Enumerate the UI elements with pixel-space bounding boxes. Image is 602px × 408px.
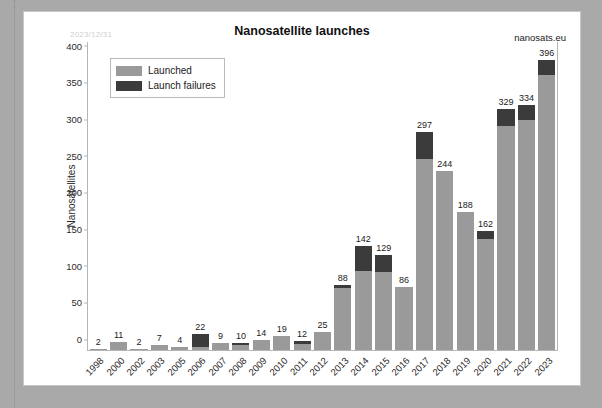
x-axis-tick: 2000 <box>104 355 127 378</box>
bar-launched: 4 <box>171 347 188 350</box>
x-axis-tick: 2006 <box>185 355 208 378</box>
bar-launched: 188 <box>457 212 474 350</box>
bar-value-label: 334 <box>519 93 534 103</box>
bar-launched: 9 <box>212 343 229 350</box>
bar-group: 252012 <box>312 42 332 350</box>
bar-launch-failures <box>294 341 311 344</box>
bar-group: 142009 <box>251 42 271 350</box>
bar-group: 102008 <box>231 42 251 350</box>
x-axis-tick: 2012 <box>308 355 331 378</box>
y-axis-tick: 400 <box>66 40 88 51</box>
x-axis-tick: 2009 <box>246 355 269 378</box>
bar-launched: 2 <box>90 349 107 350</box>
page-left-dotted-rule <box>14 0 15 408</box>
y-axis-tick: 0 <box>77 334 88 345</box>
bar-launched: 14 <box>253 340 270 350</box>
bar-launched: 10 <box>232 343 249 350</box>
bar-group: 2972017 <box>414 42 434 350</box>
bar-value-label: 19 <box>277 324 287 334</box>
bar-value-label: 86 <box>399 275 409 285</box>
bar-launch-failures <box>375 255 392 271</box>
bar-value-label: 7 <box>157 333 162 343</box>
bar-launched: 88 <box>334 285 351 350</box>
bar-group: 862016 <box>394 42 414 350</box>
bar-value-label: 2 <box>96 337 101 347</box>
y-axis-tick: 350 <box>66 77 88 88</box>
bar-launch-failures <box>477 231 494 238</box>
x-axis-tick: 2010 <box>267 355 290 378</box>
bar-group: 21998 <box>88 42 108 350</box>
bar-value-label: 162 <box>478 219 493 229</box>
bar-group: 2442018 <box>435 42 455 350</box>
y-axis-tick: 50 <box>71 297 88 308</box>
x-axis-tick: 2019 <box>450 355 473 378</box>
bar-value-label: 11 <box>114 330 123 340</box>
bar-launch-failures <box>538 60 555 75</box>
x-axis-tick: 2003 <box>144 355 167 378</box>
bar-launched: 25 <box>314 332 331 350</box>
bar-launched: 396 <box>538 60 555 350</box>
bar-launch-failures <box>232 343 249 345</box>
bar-value-label: 22 <box>195 322 205 332</box>
bar-group: 1292015 <box>373 42 393 350</box>
bar-launched: 129 <box>375 255 392 350</box>
bar-launched: 162 <box>477 231 494 350</box>
bar-group: 882013 <box>333 42 353 350</box>
bar-launched: 334 <box>518 105 535 350</box>
bar-launched: 297 <box>416 132 433 350</box>
legend-label-launch-failures: Launch failures <box>148 80 216 91</box>
bar-launched: 7 <box>151 345 168 350</box>
bar-group: 192010 <box>272 42 292 350</box>
bar-value-label: 10 <box>236 331 246 341</box>
bar-group: 3342022 <box>516 42 536 350</box>
legend-item-launch-failures: Launch failures <box>116 78 216 93</box>
y-axis-tick: 150 <box>66 224 88 235</box>
x-axis-tick: 2015 <box>369 355 392 378</box>
legend-item-launched: Launched <box>116 63 216 78</box>
bar-launched: 86 <box>395 287 412 350</box>
bar-value-label: 244 <box>437 159 452 169</box>
bar-value-label: 188 <box>458 200 473 210</box>
bar-value-label: 25 <box>317 320 327 330</box>
bar-value-label: 2 <box>136 337 141 347</box>
bar-value-label: 9 <box>218 331 223 341</box>
bar-value-label: 88 <box>338 273 348 283</box>
x-axis-tick: 2017 <box>409 355 432 378</box>
bar-launch-failures <box>497 109 514 126</box>
bar-value-label: 129 <box>376 243 391 253</box>
chart-card: 2023/12/31 Nanosatellite launches nanosa… <box>24 12 580 385</box>
bar-value-label: 396 <box>539 48 554 58</box>
bar-launched: 329 <box>497 109 514 350</box>
bar-value-label: 329 <box>498 97 513 107</box>
bar-launched: 244 <box>436 171 453 350</box>
bar-group: 1422014 <box>353 42 373 350</box>
x-axis-tick: 2014 <box>348 355 371 378</box>
y-axis-tick: 250 <box>66 150 88 161</box>
bar-launched: 11 <box>110 342 127 350</box>
bar-launched: 22 <box>192 334 209 350</box>
x-axis-tick: 2005 <box>165 355 188 378</box>
bar-value-label: 297 <box>417 120 432 130</box>
bar-launch-failures <box>355 246 372 271</box>
bar-launch-failures <box>334 285 351 287</box>
x-axis-tick: 1998 <box>83 355 106 378</box>
bar-group: 3962023 <box>537 42 557 350</box>
bar-group: 122011 <box>292 42 312 350</box>
x-axis-tick: 2008 <box>226 355 249 378</box>
bar-group: 3292021 <box>496 42 516 350</box>
bar-launched: 142 <box>355 246 372 350</box>
legend-label-launched: Launched <box>148 65 192 76</box>
x-axis-tick: 2002 <box>124 355 147 378</box>
legend-swatch-launch-failures <box>116 81 142 91</box>
bar-group: 1622020 <box>475 42 495 350</box>
x-axis-tick: 2020 <box>471 355 494 378</box>
y-axis-tick: 100 <box>66 260 88 271</box>
y-axis-tick: 200 <box>66 187 88 198</box>
bar-launch-failures <box>192 334 209 347</box>
x-axis-tick: 2022 <box>511 355 534 378</box>
x-axis-tick: 2016 <box>389 355 412 378</box>
bar-value-label: 142 <box>356 234 371 244</box>
x-axis-tick: 2023 <box>532 355 555 378</box>
bar-launched: 2 <box>130 349 147 350</box>
bar-value-label: 14 <box>256 328 266 338</box>
